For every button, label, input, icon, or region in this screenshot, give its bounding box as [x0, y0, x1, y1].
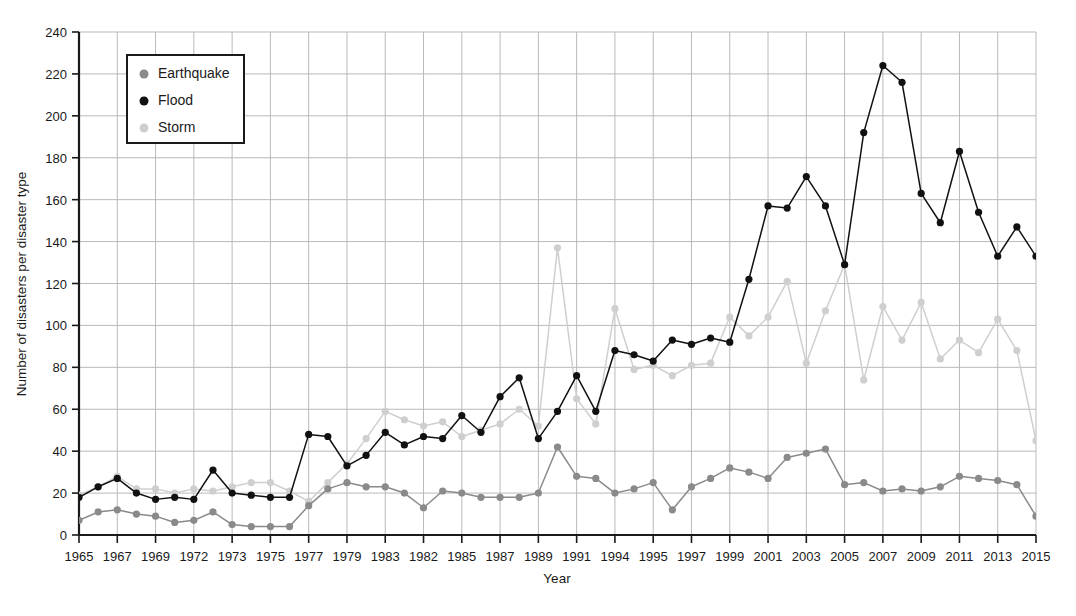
chart-legend[interactable]: EarthquakeFloodStorm	[127, 55, 244, 143]
y-axis-tick-label: 140	[45, 235, 67, 250]
data-point	[95, 508, 102, 515]
data-point	[611, 489, 618, 496]
data-point	[477, 429, 484, 436]
data-point	[477, 494, 484, 501]
data-point	[496, 393, 503, 400]
x-axis-tick-label: 2009	[907, 549, 936, 564]
data-point	[764, 202, 771, 209]
data-point	[229, 521, 236, 528]
x-axis-tick-label: 1969	[141, 549, 170, 564]
x-axis-tick-label: 1977	[294, 549, 323, 564]
x-axis-title: Year	[543, 571, 571, 586]
data-point	[401, 489, 408, 496]
x-axis-tick-label: 2013	[983, 549, 1012, 564]
x-axis-tick-label: 1979	[332, 549, 361, 564]
data-point	[860, 479, 867, 486]
data-point	[420, 504, 427, 511]
data-point	[898, 336, 905, 343]
data-point	[190, 496, 197, 503]
data-point	[784, 204, 791, 211]
data-point	[956, 473, 963, 480]
data-point	[458, 433, 465, 440]
data-point	[439, 487, 446, 494]
data-point	[248, 523, 255, 530]
x-axis-tick-label: 1999	[715, 549, 744, 564]
data-point	[209, 487, 216, 494]
data-point	[248, 492, 255, 499]
x-axis-tick-label: 1973	[218, 549, 247, 564]
data-point	[152, 513, 159, 520]
data-point	[458, 489, 465, 496]
data-point	[554, 408, 561, 415]
x-axis-tick-label: 1997	[677, 549, 706, 564]
data-point	[1013, 481, 1020, 488]
y-axis-tick-label: 20	[53, 486, 67, 501]
data-point	[994, 477, 1001, 484]
data-point	[554, 443, 561, 450]
data-point	[267, 494, 274, 501]
data-point	[535, 489, 542, 496]
data-point	[918, 487, 925, 494]
data-point	[439, 418, 446, 425]
x-axis-tick-label: 1991	[562, 549, 591, 564]
data-point	[707, 475, 714, 482]
x-axis-tick-label: 2007	[868, 549, 897, 564]
y-axis-tick-label: 120	[45, 277, 67, 292]
data-point	[152, 496, 159, 503]
x-axis-tick-label: 1985	[447, 549, 476, 564]
disaster-line-chart-figure: 020406080100120140160180200220240 196519…	[0, 0, 1076, 616]
legend-label-flood: Flood	[158, 92, 193, 108]
data-point	[784, 278, 791, 285]
legend-label-storm: Storm	[158, 119, 195, 135]
data-point	[382, 483, 389, 490]
data-point	[496, 420, 503, 427]
data-point	[726, 464, 733, 471]
data-point	[401, 441, 408, 448]
data-point	[688, 483, 695, 490]
data-point	[209, 466, 216, 473]
data-point	[822, 445, 829, 452]
data-point	[611, 347, 618, 354]
data-point	[918, 190, 925, 197]
data-point	[918, 299, 925, 306]
data-point	[516, 494, 523, 501]
data-point	[630, 485, 637, 492]
x-axis-tick-label: 1972	[179, 549, 208, 564]
data-point	[688, 341, 695, 348]
data-point	[305, 502, 312, 509]
y-axis-tick-label: 220	[45, 67, 67, 82]
data-point	[133, 510, 140, 517]
x-axis-tick-label: 2011	[945, 549, 973, 564]
data-point	[324, 485, 331, 492]
data-point	[382, 429, 389, 436]
data-point	[994, 253, 1001, 260]
chart-canvas: 020406080100120140160180200220240 196519…	[0, 0, 1076, 616]
data-point	[171, 494, 178, 501]
data-point	[592, 420, 599, 427]
y-axis-tick-label: 180	[45, 151, 67, 166]
data-point	[937, 483, 944, 490]
data-point	[956, 336, 963, 343]
data-point	[363, 483, 370, 490]
data-point	[248, 479, 255, 486]
data-point	[439, 435, 446, 442]
data-point	[707, 360, 714, 367]
data-point	[209, 508, 216, 515]
data-point	[860, 376, 867, 383]
x-axis-tick-label: 1995	[639, 549, 668, 564]
legend-marker-flood	[140, 97, 149, 106]
data-point	[114, 506, 121, 513]
data-point	[956, 148, 963, 155]
data-point	[726, 313, 733, 320]
x-axis-tick-label: 2015	[1022, 549, 1051, 564]
data-point	[745, 332, 752, 339]
data-point	[630, 366, 637, 373]
data-point	[171, 519, 178, 526]
x-axis-tick-label: 1965	[65, 549, 94, 564]
x-axis-tick-label: 1987	[486, 549, 515, 564]
data-point	[669, 372, 676, 379]
data-point	[516, 406, 523, 413]
data-point	[95, 483, 102, 490]
x-axis-tick-label: 2005	[830, 549, 859, 564]
data-point	[573, 372, 580, 379]
